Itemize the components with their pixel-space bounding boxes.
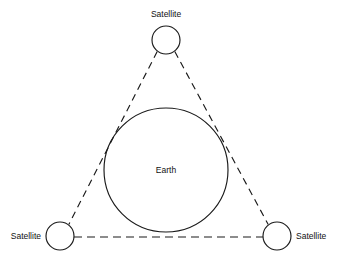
satellite-top-node: Satellite [151,9,182,54]
satellite-bottom-right-label: Satellite [296,231,327,241]
satellite-top-circle [152,26,180,54]
diagram-figure: Earth Satellite Satellite Satellite [0,0,344,263]
satellite-bottom-right-circle [263,222,291,250]
satellite-bottom-right-node: Satellite [263,222,327,250]
satellite-bottom-left-label: Satellite [11,231,42,241]
inter-satellite-links [69,52,268,238]
satellite-bottom-left-circle [46,222,74,250]
satellite-constellation-diagram: Earth Satellite Satellite Satellite [0,0,344,263]
earth-node: Earth [104,108,228,232]
earth-label: Earth [156,165,177,175]
satellite-top-label: Satellite [151,9,182,19]
satellite-bottom-left-node: Satellite [11,222,74,250]
